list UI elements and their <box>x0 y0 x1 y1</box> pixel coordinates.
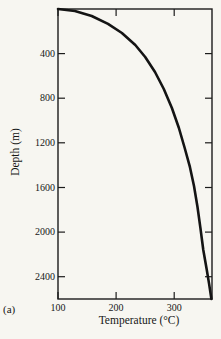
y-axis-title: Depth (m) <box>9 128 21 176</box>
y-tick-label: 400 <box>40 49 55 59</box>
y-tick-label: 1200 <box>35 138 55 148</box>
figure-part-label: (a) <box>3 303 15 315</box>
x-axis-title: Temperature (°C) <box>99 314 180 326</box>
x-tick-label: 100 <box>51 303 66 313</box>
x-tick-label: 300 <box>167 303 182 313</box>
geotherm-curve <box>58 9 211 299</box>
y-tick-label: 800 <box>40 93 55 103</box>
y-tick-label: 2000 <box>35 227 55 237</box>
geotherm-chart <box>0 0 221 339</box>
x-tick-label: 200 <box>109 303 124 313</box>
plot-frame <box>58 9 212 299</box>
figure-canvas: 4008001200160020002400100200300 Depth (m… <box>0 0 221 339</box>
y-tick-label: 2400 <box>35 272 55 282</box>
y-tick-label: 1600 <box>35 183 55 193</box>
